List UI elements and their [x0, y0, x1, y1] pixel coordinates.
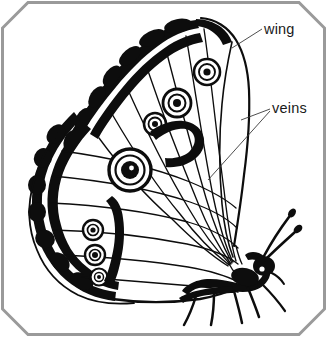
- figure-canvas: wing veins: [0, 0, 327, 337]
- band-blob: [28, 202, 46, 222]
- eyespot-hindwing-1: [83, 220, 103, 240]
- butterfly-eye: [259, 266, 264, 271]
- butterfly-diagram: wing veins: [0, 0, 327, 337]
- eyespot-large: [109, 149, 151, 191]
- eyespot-forewing-middle: [163, 89, 191, 117]
- eyespot-hindwing-2: [85, 245, 105, 265]
- label-wing: wing: [263, 21, 295, 37]
- eyespot-hindwing-3: [91, 269, 108, 286]
- label-veins: veins: [272, 100, 307, 116]
- eyespot-forewing-upper: [194, 59, 220, 85]
